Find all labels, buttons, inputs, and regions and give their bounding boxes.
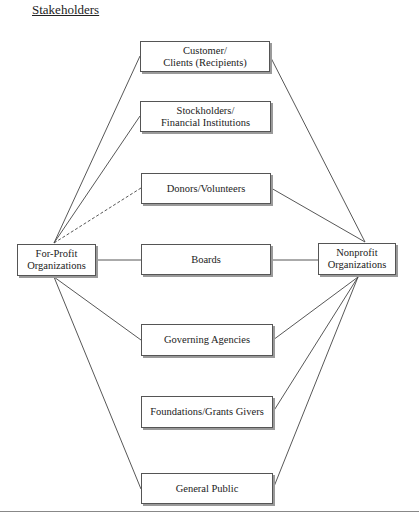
for-profit-node: For-Profit Organizations bbox=[17, 244, 96, 276]
stakeholder-governing: Governing Agencies bbox=[141, 324, 273, 356]
stakeholder-donors: Donors/Volunteers bbox=[141, 173, 271, 204]
bottom-rule bbox=[0, 511, 419, 512]
nonprofit-node: Nonprofit Organizations bbox=[318, 243, 396, 275]
stakeholder-boards: Boards bbox=[141, 244, 271, 275]
stakeholder-customers: Customer/ Clients (Recipients) bbox=[140, 41, 270, 72]
stakeholder-stockholders: Stockholders/ Financial Institutions bbox=[140, 101, 271, 132]
stakeholder-public: General Public bbox=[141, 473, 273, 504]
stakeholder-foundations: Foundations/Grants Givers bbox=[141, 396, 273, 428]
